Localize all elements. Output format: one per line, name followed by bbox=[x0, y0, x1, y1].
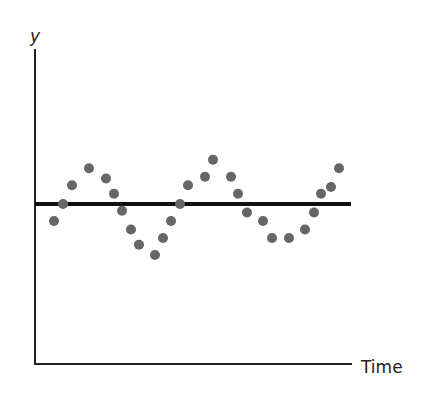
data-points bbox=[49, 155, 344, 260]
data-point bbox=[58, 199, 68, 209]
data-point bbox=[233, 189, 243, 199]
data-point bbox=[326, 182, 336, 192]
data-point bbox=[309, 208, 319, 218]
data-point bbox=[208, 155, 218, 165]
data-point bbox=[258, 216, 268, 226]
data-point bbox=[175, 199, 185, 209]
data-point bbox=[226, 172, 236, 182]
data-point bbox=[183, 180, 193, 190]
data-point bbox=[150, 250, 160, 260]
data-point bbox=[334, 163, 344, 173]
data-point bbox=[284, 233, 294, 243]
data-point bbox=[300, 225, 310, 235]
data-point bbox=[242, 208, 252, 218]
data-point bbox=[158, 233, 168, 243]
data-point bbox=[126, 225, 136, 235]
data-point bbox=[67, 180, 77, 190]
data-point bbox=[267, 233, 277, 243]
y-axis-label: y bbox=[29, 26, 41, 46]
data-point bbox=[84, 163, 94, 173]
data-point bbox=[316, 189, 326, 199]
data-point bbox=[166, 216, 176, 226]
data-point bbox=[101, 174, 111, 184]
data-point bbox=[49, 216, 59, 226]
data-point bbox=[134, 240, 144, 250]
x-axis-label: Time bbox=[360, 357, 403, 377]
time-series-chart: y Time bbox=[0, 0, 423, 402]
data-point bbox=[109, 189, 119, 199]
data-point bbox=[117, 206, 127, 216]
data-point bbox=[200, 172, 210, 182]
